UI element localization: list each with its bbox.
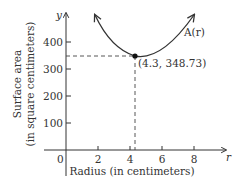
origin-label: 0 bbox=[57, 153, 64, 165]
min-point-label: (4.3, 348.73) bbox=[138, 57, 206, 69]
y-tick-label-400: 400 bbox=[43, 36, 63, 48]
x-var-label: r bbox=[226, 151, 232, 163]
y-axis-title-line1: Surface area bbox=[11, 50, 23, 118]
y-ticks bbox=[66, 42, 71, 123]
x-tick-label-4: 4 bbox=[127, 153, 134, 165]
x-tick-label-2: 2 bbox=[95, 153, 102, 165]
y-axis-title-line2: (in square centimeters) bbox=[24, 22, 36, 147]
x-tick-label-6: 6 bbox=[159, 153, 166, 165]
minimum-point bbox=[132, 53, 137, 58]
x-tick-label-8: 8 bbox=[191, 153, 198, 165]
x-axis-title: Radius (in centimeters) bbox=[69, 165, 194, 177]
curve-label: A(r) bbox=[183, 26, 205, 38]
y-tick-label-300: 300 bbox=[43, 63, 63, 75]
y-tick-label-100: 100 bbox=[43, 117, 63, 129]
y-var-label: y bbox=[55, 9, 63, 21]
chart: y r 0 2 4 6 8 400 300 200 100 A(r) (4.3,… bbox=[0, 0, 239, 191]
y-tick-label-200: 200 bbox=[43, 90, 63, 102]
curve-a-of-r bbox=[95, 15, 194, 57]
x-ticks bbox=[98, 146, 194, 150]
